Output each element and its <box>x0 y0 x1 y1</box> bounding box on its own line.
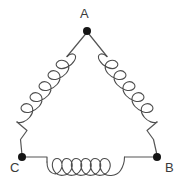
node-label-c: C <box>10 161 19 174</box>
lead-a-left <box>67 34 86 57</box>
lead-c-right <box>24 157 47 162</box>
lead-c-up <box>17 122 27 155</box>
node-label-b: B <box>165 161 174 174</box>
coil-ab-winding <box>98 54 157 123</box>
coil-cb-winding <box>47 157 125 176</box>
node-dot-c[interactable] <box>18 153 26 161</box>
delta-coil-diagram <box>0 0 183 186</box>
diagram-canvas: A C B <box>0 0 183 186</box>
coil-ac-winding <box>17 54 76 123</box>
lead-b-up <box>147 122 157 155</box>
node-label-a: A <box>80 7 89 20</box>
node-dot-b[interactable] <box>153 153 161 161</box>
node-dot-a[interactable] <box>83 27 91 35</box>
coil-a-to-c <box>17 34 86 156</box>
coil-a-to-b <box>89 34 158 156</box>
coil-c-to-b <box>24 157 155 176</box>
lead-a-right <box>89 34 108 57</box>
